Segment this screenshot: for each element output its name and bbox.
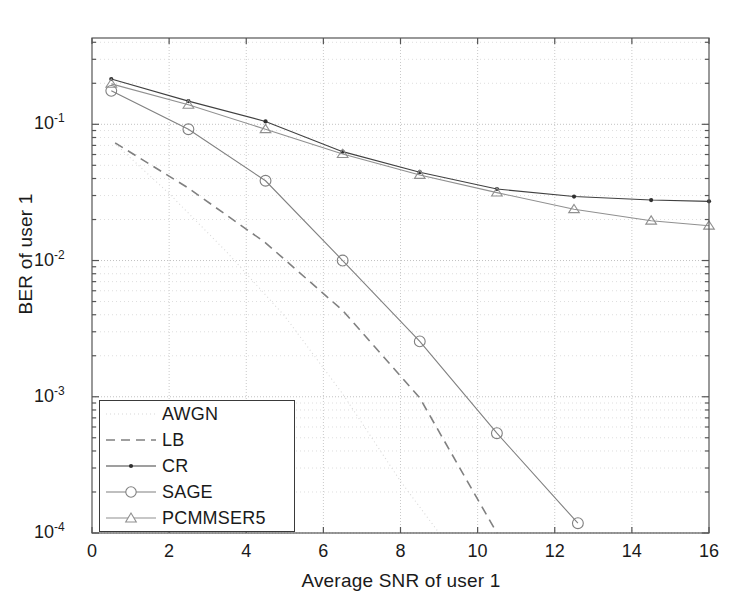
y-tick-label: 10-1 xyxy=(34,111,65,134)
legend-swatch-circle-icon xyxy=(104,481,158,503)
x-tick-label: 2 xyxy=(157,541,181,562)
x-tick-label: 12 xyxy=(543,541,567,562)
y-tick-label: 10-3 xyxy=(34,384,65,407)
y-tick-label: 10-2 xyxy=(34,248,65,271)
legend-swatch-triangle-icon xyxy=(104,507,158,529)
x-tick-label: 6 xyxy=(311,541,335,562)
legend: AWGNLBCRSAGEPCMMSER5 xyxy=(99,400,295,532)
legend-item-cr[interactable]: CR xyxy=(100,453,294,479)
legend-item-awgn[interactable]: AWGN xyxy=(100,401,294,427)
legend-item-lb[interactable]: LB xyxy=(100,427,294,453)
legend-label: PCMMSER5 xyxy=(162,508,266,529)
y-tick-label: 10-4 xyxy=(34,520,65,543)
x-tick-label: 16 xyxy=(697,541,721,562)
legend-item-sage[interactable]: SAGE xyxy=(100,479,294,505)
legend-label: AWGN xyxy=(162,404,218,425)
x-tick-label: 8 xyxy=(389,541,413,562)
legend-label: LB xyxy=(162,430,184,451)
legend-label: CR xyxy=(162,456,188,477)
series-cr xyxy=(109,77,711,204)
legend-swatch-none-icon xyxy=(104,403,158,425)
figure-root: 0246810121416 10-110-210-310-4 BER of us… xyxy=(0,0,750,604)
legend-item-pcmmser5[interactable]: PCMMSER5 xyxy=(100,505,294,531)
y-axis-title: BER of user 1 xyxy=(15,154,37,354)
legend-swatch-dot-icon xyxy=(104,455,158,477)
x-tick-label: 14 xyxy=(620,541,644,562)
series-pcmmser5 xyxy=(106,79,714,229)
legend-swatch-none-icon xyxy=(104,429,158,451)
legend-label: SAGE xyxy=(162,482,213,503)
x-axis-title: Average SNR of user 1 xyxy=(92,570,710,592)
x-tick-label: 10 xyxy=(466,541,490,562)
x-tick-label: 4 xyxy=(234,541,258,562)
x-tick-label: 0 xyxy=(80,541,104,562)
